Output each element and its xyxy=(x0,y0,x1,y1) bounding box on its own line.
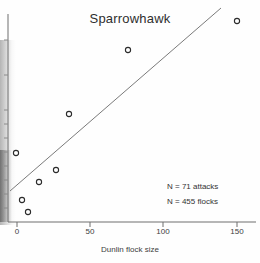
x-axis-ticks xyxy=(17,222,237,227)
plot-canvas xyxy=(0,0,260,263)
data-point xyxy=(36,179,41,184)
x-tick-label-0: 0 xyxy=(15,227,19,236)
data-point xyxy=(19,197,24,202)
scatter-plot-figure: Sparrowhawk 0 50 100 150 Dunlin flock si… xyxy=(0,0,260,263)
data-point xyxy=(13,150,18,155)
data-point xyxy=(53,167,58,172)
regression-trendline xyxy=(10,8,221,191)
y-axis-ticks xyxy=(4,40,8,208)
annotation-attacks: N = 71 attacks xyxy=(167,182,218,191)
data-point xyxy=(66,111,71,116)
x-tick-label-100: 100 xyxy=(156,227,169,236)
x-tick-label-50: 50 xyxy=(86,227,95,236)
annotation-flocks: N = 455 flocks xyxy=(167,197,218,206)
x-tick-label-150: 150 xyxy=(230,227,243,236)
data-point xyxy=(25,209,30,214)
chart-title: Sparrowhawk xyxy=(0,11,260,26)
x-axis-label: Dunlin flock size xyxy=(0,245,260,254)
data-point xyxy=(125,47,130,52)
